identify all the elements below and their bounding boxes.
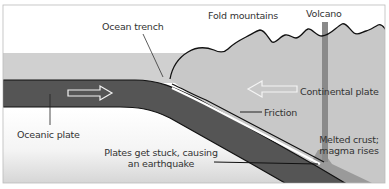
label-volcano: Volcano: [306, 8, 342, 19]
label-continental-plate: Continental plate: [300, 86, 379, 97]
label-earthquake-line1: Plates get stuck, causing: [96, 147, 226, 158]
label-fold-mountains: Fold mountains: [208, 10, 278, 21]
label-friction: Friction: [264, 107, 297, 118]
label-earthquake: Plates get stuck, causing an earthquake: [96, 147, 226, 169]
label-melted-crust: Melted crust; magma rises: [314, 134, 384, 156]
label-oceanic-plate: Oceanic plate: [17, 129, 80, 140]
label-ocean-trench: Ocean trench: [102, 21, 164, 32]
label-earthquake-line2: an earthquake: [96, 158, 226, 169]
label-melted-crust-line1: Melted crust;: [314, 134, 384, 145]
label-melted-crust-line2: magma rises: [314, 145, 384, 156]
